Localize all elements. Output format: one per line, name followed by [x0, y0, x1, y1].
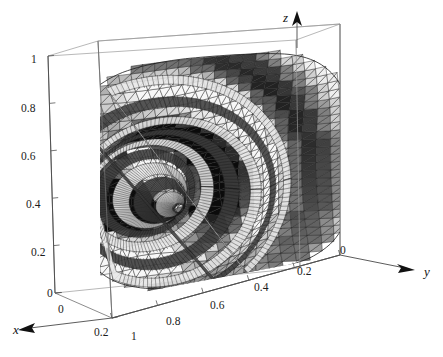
- surface-hatch-line: [87, 211, 93, 217]
- surface-hatch-line: [86, 191, 93, 193]
- mesh-triangle: [73, 105, 87, 115]
- mesh-triangle: [87, 249, 95, 261]
- mesh-triangle: [77, 189, 82, 202]
- surface-hatch-line: [92, 178, 98, 179]
- mesh-triangle: [88, 158, 98, 168]
- mesh-triangle: [82, 132, 96, 142]
- surface-hatch-line: [94, 150, 100, 155]
- mesh-triangle: [344, 167, 355, 177]
- mesh-triangle: [91, 235, 97, 249]
- mesh-triangle: [79, 124, 94, 134]
- mesh-triangle: [81, 186, 91, 196]
- mesh-triangle: [344, 175, 355, 185]
- y-tick-label-4: 0.2: [297, 265, 312, 277]
- mesh-triangle: [84, 132, 97, 142]
- z-tick-1: [54, 245, 60, 246]
- mesh-triangle: [87, 218, 93, 230]
- surface-hatch-line: [88, 231, 91, 240]
- mesh-triangle: [82, 178, 92, 188]
- surface-hatch-line: [91, 236, 94, 245]
- surface-hatch-line: [96, 240, 98, 250]
- mesh-triangle: [91, 226, 97, 239]
- mesh-triangle: [88, 258, 98, 268]
- surface-hatch-line: [86, 126, 97, 135]
- surface-hatch-line: [84, 183, 88, 184]
- mesh-triangle: [87, 95, 101, 105]
- mesh-triangle: [340, 95, 350, 106]
- mesh-triangle: [81, 194, 91, 204]
- y-tick-label-3: 0.4: [254, 281, 269, 293]
- surface-mesh: [72, 50, 355, 292]
- mesh-triangle: [76, 114, 90, 124]
- mesh-triangle: [84, 155, 95, 165]
- z-tick-label-0: 1: [31, 53, 37, 65]
- surface-hatch-line: [80, 198, 85, 201]
- mesh-triangle: [81, 194, 91, 204]
- surface-hatch-line: [89, 174, 92, 175]
- mesh-triangle: [88, 158, 98, 168]
- mesh-triangle: [82, 178, 92, 188]
- y-axis-arrow-head: [397, 264, 415, 273]
- surface-hatch-line: [80, 212, 85, 217]
- mesh-triangle: [82, 230, 87, 243]
- mesh-triangle: [85, 148, 96, 158]
- surface-hatch-line: [79, 201, 84, 205]
- z-tick-label-4: 0.2: [31, 246, 46, 258]
- mesh-triangle: [88, 249, 98, 261]
- mesh-triangle: [85, 141, 97, 150]
- mesh-triangle: [87, 240, 95, 253]
- surface-hatch-line: [82, 189, 86, 191]
- mesh-triangle: [342, 127, 352, 137]
- mesh-triangle: [80, 168, 88, 179]
- mesh-triangle: [344, 159, 355, 169]
- surface-hatch-line: [85, 160, 92, 164]
- mesh-triangle: [91, 152, 102, 162]
- mesh-triangle: [85, 230, 91, 243]
- y-tick-label-5: 0: [340, 244, 346, 256]
- mesh-triangle: [341, 103, 351, 114]
- x-tick-0: [55, 293, 62, 294]
- mesh-triangle: [345, 183, 356, 193]
- mesh-triangle: [341, 95, 351, 106]
- mesh-triangle: [344, 175, 355, 185]
- mesh-triangle: [77, 204, 81, 217]
- surface-hatch-line: [92, 220, 98, 228]
- x-tick-label-1: 0.2: [94, 326, 109, 338]
- surface-hatch-line: [98, 242, 100, 252]
- mesh-triangle: [94, 235, 101, 249]
- box-edge-top-front: [98, 24, 340, 41]
- y-tick-1: [156, 300, 158, 305]
- mesh-triangle: [84, 141, 97, 150]
- surface-hatch-line: [85, 196, 92, 199]
- mesh-triangle: [83, 171, 92, 182]
- surface-hatch-line: [86, 229, 90, 237]
- surface-hatch-line: [86, 194, 93, 196]
- y-axis-extension: [340, 255, 405, 268]
- z-tick-3: [51, 150, 57, 151]
- mesh-triangle: [343, 135, 354, 145]
- mesh-triangle: [78, 204, 82, 217]
- z-tick-label-1: 0.8: [21, 102, 36, 114]
- mesh-triangle: [344, 159, 355, 169]
- surface-hatch-line: [90, 218, 96, 225]
- surface-hatch-line: [83, 186, 87, 187]
- mesh-triangle: [83, 210, 92, 221]
- mesh-triangle: [85, 210, 93, 221]
- z-tick-label-5: 0: [47, 287, 53, 299]
- mesh-triangle: [94, 245, 101, 258]
- surface-hatch-line: [80, 215, 84, 221]
- mesh-triangle: [82, 162, 91, 173]
- surface-hatch-line: [87, 189, 93, 190]
- surface-hatch-line: [94, 238, 97, 248]
- surface-hatch-line: [95, 172, 100, 174]
- mesh-triangle: [76, 105, 90, 115]
- surface-hatch-line: [79, 207, 84, 212]
- mesh-triangle: [85, 218, 93, 230]
- mesh-triangle: [80, 168, 88, 179]
- z-tick-label-3: 0.4: [26, 198, 41, 210]
- mesh-triangle: [84, 155, 95, 165]
- surface-hatch-line: [82, 221, 86, 228]
- surface-hatch-line: [80, 195, 84, 198]
- mesh-triangle: [77, 182, 83, 194]
- surface-hatch-line: [90, 123, 101, 132]
